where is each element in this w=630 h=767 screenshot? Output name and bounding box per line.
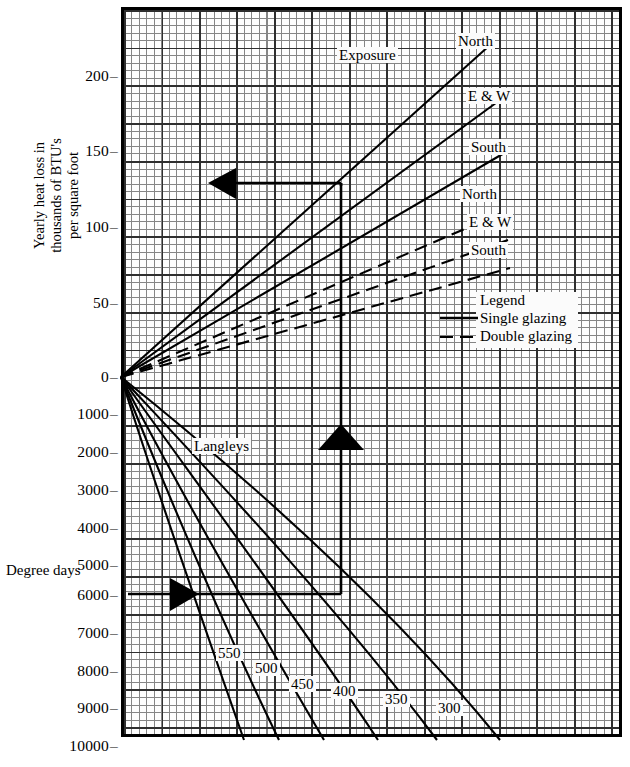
label-single-south: South	[469, 139, 508, 155]
ray-single-north	[121, 45, 490, 377]
label-langley-550: 550	[216, 645, 243, 661]
label-langley-400: 400	[331, 683, 358, 699]
chart-curves-layer	[0, 0, 630, 767]
label-double-ew: E & W	[467, 214, 513, 230]
construction-path	[128, 183, 341, 594]
ray-single-south	[121, 152, 506, 377]
langley-curve-500	[121, 377, 279, 740]
heat-loss-nomograph-figure: Yearly heat loss in thousands of BTU's p…	[0, 0, 630, 767]
label-langley-300: 300	[436, 700, 463, 716]
arrow-right-degree-days-entry	[170, 578, 199, 611]
label-langley-350: 350	[383, 691, 410, 707]
ray-double-south	[121, 268, 510, 377]
legend-title: Legend	[478, 292, 527, 309]
label-exposure: Exposure	[337, 47, 398, 63]
langley-curve-350	[121, 377, 437, 740]
label-langleys: Langleys	[192, 438, 251, 454]
label-single-north: North	[456, 33, 495, 49]
langley-curve-550	[121, 377, 244, 740]
double-glazing-rays	[121, 212, 510, 377]
legend-entry-single-glazing: Single glazing	[478, 310, 568, 327]
label-langley-500: 500	[253, 660, 280, 676]
label-single-ew: E & W	[466, 88, 512, 104]
legend-entry-double-glazing: Double glazing	[478, 328, 574, 345]
arrow-up-langleys	[318, 424, 364, 450]
label-double-north: North	[460, 186, 499, 202]
label-langley-450: 450	[289, 676, 316, 692]
arrow-left-heat-loss-readout	[208, 168, 236, 199]
label-double-south: South	[469, 242, 508, 258]
ray-double-ew	[121, 240, 508, 377]
single-glazing-rays	[121, 45, 506, 377]
